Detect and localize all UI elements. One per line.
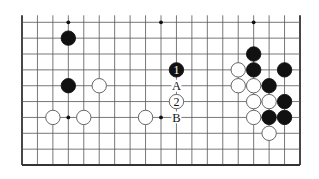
white-stone xyxy=(262,126,276,140)
black-stone-icon xyxy=(262,79,276,93)
star-point-icon xyxy=(159,20,163,24)
star-point-icon xyxy=(252,20,256,24)
black-stone-1: 1 xyxy=(169,63,183,77)
black-stone xyxy=(277,63,291,77)
white-stone xyxy=(246,110,260,124)
white-stone-icon xyxy=(92,79,106,93)
star-point-icon xyxy=(66,20,70,24)
white-stone-icon xyxy=(46,110,60,124)
white-stone xyxy=(246,79,260,93)
black-stone-icon xyxy=(262,110,276,124)
black-stone-icon xyxy=(277,110,291,124)
white-stone xyxy=(138,110,152,124)
black-stone xyxy=(262,110,276,124)
black-stone-icon xyxy=(61,31,75,45)
white-stone-2: 2 xyxy=(169,94,183,109)
white-stone xyxy=(46,110,60,124)
white-stone xyxy=(231,63,245,77)
white-stone-icon xyxy=(138,110,152,124)
white-stone-icon xyxy=(262,126,276,140)
black-stone xyxy=(61,79,75,93)
black-stone xyxy=(61,31,75,45)
white-stone xyxy=(231,79,245,93)
black-stone-icon xyxy=(246,63,260,77)
white-stone-icon xyxy=(262,94,276,108)
black-stone-icon xyxy=(61,79,75,93)
white-stone-icon xyxy=(77,110,91,124)
black-stone xyxy=(277,94,291,108)
black-stone-icon xyxy=(246,47,260,61)
black-stone xyxy=(246,63,260,77)
point-label-b: B xyxy=(172,111,180,125)
black-stone-icon xyxy=(277,63,291,77)
black-stone xyxy=(277,110,291,124)
star-point-icon xyxy=(66,116,70,120)
white-stone-icon xyxy=(246,94,260,108)
white-stone-icon xyxy=(231,79,245,93)
white-stone-icon xyxy=(231,63,245,77)
white-stone-icon xyxy=(246,110,260,124)
star-point-icon xyxy=(159,116,163,120)
move-number: 2 xyxy=(173,95,179,109)
black-stone xyxy=(246,47,260,61)
white-stone xyxy=(92,79,106,93)
white-stone xyxy=(246,94,260,108)
move-number: 1 xyxy=(173,63,179,77)
white-stone xyxy=(262,94,276,108)
black-stone-icon xyxy=(277,94,291,108)
white-stone xyxy=(77,110,91,124)
black-stone xyxy=(262,79,276,93)
go-board-diagram: 12 AB xyxy=(0,0,319,179)
point-label-a: A xyxy=(172,79,181,93)
white-stone-icon xyxy=(246,79,260,93)
